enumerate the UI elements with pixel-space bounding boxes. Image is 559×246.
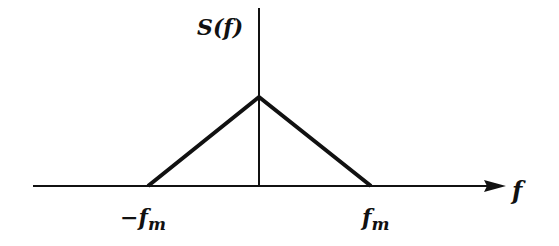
tick-label-fm-sub: m: [371, 214, 389, 234]
y-axis-label: S(f): [197, 14, 243, 40]
tick-label-fm: fm: [360, 204, 389, 234]
tick-label-neg-fm-main: −f: [120, 204, 151, 230]
diagram-svg: S(f) f −fm fm: [0, 0, 559, 246]
tick-label-neg-fm: −fm: [120, 204, 166, 234]
spectrum-diagram: S(f) f −fm fm: [0, 0, 559, 246]
x-axis-label: f: [510, 176, 526, 205]
x-axis-arrow-icon: [484, 180, 506, 192]
tick-label-neg-fm-sub: m: [148, 214, 166, 234]
